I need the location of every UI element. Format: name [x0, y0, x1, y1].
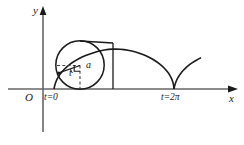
- t-start-label: t=0: [44, 93, 58, 103]
- y-axis-label: y: [33, 5, 38, 16]
- x-axis-label: x: [229, 93, 234, 104]
- cycloid-arch-first: [54, 49, 174, 89]
- t-end-label: t=2π: [161, 93, 180, 103]
- y-axis-arrowhead: [40, 6, 47, 15]
- y-axis: [40, 6, 47, 132]
- origin-label: O: [25, 92, 33, 103]
- radius-label-a: a: [86, 60, 91, 70]
- angle-label-t: t: [69, 68, 72, 78]
- cycloid-figure: y x O t=0 t=2π a t: [0, 0, 244, 145]
- generating-point-dot: [57, 71, 60, 74]
- cycloid-arch-second-partial: [174, 58, 201, 89]
- cycloid-diagram-canvas: [0, 0, 244, 145]
